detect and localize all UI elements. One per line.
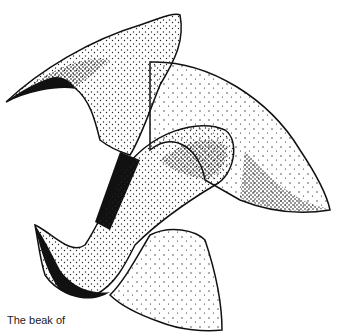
beak-illustration [0, 0, 342, 336]
figure-caption: The beak of [7, 314, 65, 326]
